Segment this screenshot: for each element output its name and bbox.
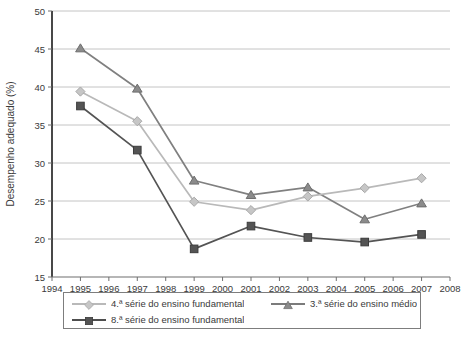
- svg-text:35: 35: [34, 120, 45, 131]
- svg-text:30: 30: [34, 158, 45, 169]
- legend-key-triangle-icon: [271, 298, 305, 310]
- svg-text:1994: 1994: [41, 283, 62, 294]
- legend-entry-8a-serie-fundamental: 8.ª série do ensino fundamental: [72, 312, 244, 327]
- legend-key-diamond-icon: [72, 298, 106, 310]
- y-axis-title: Desempenho adequado (%): [5, 81, 16, 206]
- svg-text:20: 20: [34, 234, 45, 245]
- svg-text:25: 25: [34, 196, 45, 207]
- y-axis-tick-labels: 1520253035404550: [34, 6, 45, 283]
- svg-text:40: 40: [34, 82, 45, 93]
- chart-legend: 4.ª série do ensino fundamental 8.ª séri…: [63, 292, 421, 329]
- legend-label-4a-serie-fundamental: 4.ª série do ensino fundamental: [111, 298, 244, 309]
- svg-text:2008: 2008: [439, 283, 460, 294]
- plot-area-background: [52, 11, 450, 277]
- legend-key-square-icon: [72, 314, 106, 326]
- legend-label-8a-serie-fundamental: 8.ª série do ensino fundamental: [111, 314, 244, 325]
- svg-text:15: 15: [34, 272, 45, 283]
- legend-entry-4a-serie-fundamental: 4.ª série do ensino fundamental: [72, 296, 244, 311]
- chart-figure: 1520253035404550 19941995199619971998199…: [0, 0, 465, 346]
- svg-text:45: 45: [34, 44, 45, 55]
- legend-label-3a-serie-medio: 3.ª série do ensino médio: [310, 298, 417, 309]
- legend-entry-3a-serie-medio: 3.ª série do ensino médio: [271, 296, 417, 311]
- y-axis-title-text: Desempenho adequado (%): [5, 81, 16, 206]
- svg-text:50: 50: [34, 6, 45, 17]
